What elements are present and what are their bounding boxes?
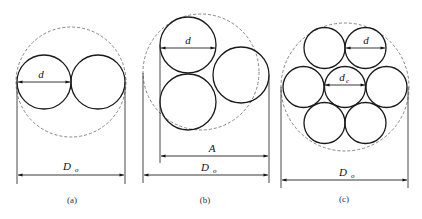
D-subscript: o [213, 167, 217, 175]
caption-b: (b) [200, 195, 211, 205]
D-label: D [338, 166, 347, 178]
dc-subscript: c [346, 77, 350, 85]
cable-strand-diagram: d D o (a) d A D o (b) d d [0, 0, 422, 219]
enclosing-circle [281, 23, 409, 151]
A-label: A [208, 142, 216, 154]
strand-circle [366, 67, 407, 108]
d-label: d [38, 68, 44, 80]
panel-b: d A D o (b) [143, 14, 269, 205]
strand-circle [160, 74, 216, 130]
D-subscript: o [351, 172, 355, 180]
D-label: D [200, 161, 209, 173]
caption-a: (a) [67, 195, 77, 205]
strand-circle [213, 47, 269, 103]
panel-a: d D o (a) [16, 27, 126, 205]
strand-circle [304, 28, 345, 69]
dc-label: d [339, 71, 345, 83]
strand-circle [71, 55, 125, 109]
strand-circle [283, 67, 324, 108]
strand-circle [345, 103, 386, 144]
D-label: D [62, 160, 71, 172]
caption-c: (c) [339, 194, 349, 204]
strand-circle [304, 103, 345, 144]
center-strand-circle [325, 67, 366, 108]
D-subscript: o [75, 166, 79, 174]
d-label: d [363, 34, 369, 46]
panel-c: d d c D o (c) [281, 23, 409, 204]
d-label: d [185, 34, 191, 46]
